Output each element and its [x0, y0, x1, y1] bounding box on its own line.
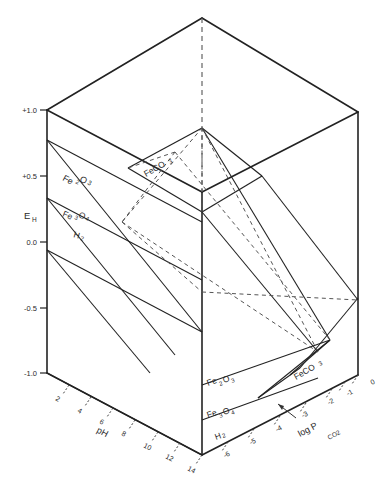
ph-tick-label-4: 10 — [143, 442, 153, 452]
feco3-fold-right — [202, 176, 262, 212]
label-fe3o4-front-face: Fe 3 O 4 — [205, 405, 236, 420]
ph-tick-10 — [152, 432, 158, 441]
label-fe2o3-left-sub2: 3 — [87, 179, 94, 187]
hidden-right-c — [175, 152, 330, 340]
label-fe2o3-left-face: Fe 2 O 3 — [61, 173, 93, 187]
front-feco3-edge — [258, 340, 330, 398]
box-top-left-ridge — [47, 18, 202, 110]
ph-tick-14 — [196, 455, 202, 464]
label-feco3-upper: FeCO 3 — [142, 158, 174, 179]
phase-diagram-svg: +1.0 +0.5 0.0 -0.5 -1.0 E H 2 4 6 8 10 1… — [0, 0, 390, 491]
sheet-right-b — [202, 212, 318, 352]
figure-canvas: +1.0 +0.5 0.0 -0.5 -1.0 E H 2 4 6 8 10 1… — [0, 0, 390, 491]
label-h2-left-face: H 2 — [72, 229, 85, 242]
boundary-h2-lower-left — [47, 250, 202, 332]
label-feco3-front-sub1: 3 — [318, 360, 324, 367]
eh-axis-title-sub: H — [32, 216, 37, 223]
pco2-tick-label-5: -1 — [345, 388, 354, 397]
ph-tick-label-6: 14 — [187, 465, 197, 475]
eh-tick-label-0: +1.0 — [22, 106, 37, 115]
pco2-tick-label-0: -6 — [222, 450, 231, 459]
box-top-right-ridge — [202, 18, 358, 112]
eh-axis-title-main: E — [24, 210, 30, 221]
label-h2-front-main: H — [213, 430, 222, 441]
label-feco3-front: FeCO 3 — [292, 360, 324, 382]
eh-tick-labels: +1.0 +0.5 0.0 -0.5 -1.0 — [22, 106, 37, 378]
feco3-fold-left — [128, 168, 202, 212]
eh-axis-title: E H — [24, 210, 37, 223]
ph-tick-label-0: 2 — [55, 395, 62, 403]
label-fe2o3-left-main: Fe — [61, 173, 75, 187]
label-fe2o3-front-main: Fe — [205, 375, 218, 388]
eh-tick-label-4: -1.0 — [24, 369, 37, 378]
box-top-front-right — [202, 112, 358, 192]
ph-tick-6 — [107, 408, 113, 417]
left-face-diagonals — [47, 140, 202, 455]
ph-tick-labels: 2 4 6 8 10 12 14 — [55, 395, 197, 475]
ph-axis-ticks — [63, 385, 202, 464]
pco2-axis-title-sub: CO2 — [326, 428, 341, 441]
pco2-axis-title-main: log P — [296, 420, 319, 438]
label-fe3o4-front-sub2: 4 — [230, 409, 236, 416]
eh-tick-label-2: 0.0 — [27, 238, 37, 247]
diag-fe2o3-left-b — [47, 198, 175, 355]
pco2-tick-label-3: -3 — [300, 410, 309, 419]
feco3-ridge-left — [128, 128, 202, 168]
pco2-tick-label-1: -5 — [248, 437, 257, 446]
eh-axis-ticks — [40, 110, 47, 373]
pco2-tick-label-6: 0 — [369, 378, 376, 386]
diag-fe2o3-left-c — [47, 250, 150, 373]
ph-tick-4 — [85, 397, 91, 406]
hidden-right-e — [122, 222, 202, 292]
pco2-axis-arrowhead — [278, 404, 284, 410]
label-fe2o3-front-sub2: 3 — [230, 377, 236, 384]
hidden-right-a — [122, 222, 318, 352]
label-feco3-upper-sub1: 3 — [168, 158, 174, 165]
ph-tick-2 — [63, 385, 69, 394]
ph-tick-12 — [174, 443, 180, 452]
ph-axis-title: pH — [95, 425, 110, 439]
pco2-tick-label-2: -4 — [274, 424, 283, 433]
eh-tick-label-1: +0.5 — [22, 172, 37, 181]
pco2-tick-label-4: -2 — [326, 397, 335, 406]
feco3-hidden-d — [122, 128, 202, 222]
sheet-right-c — [262, 176, 358, 300]
feco3-wedge-hidden — [122, 128, 202, 222]
right-face-boundaries — [202, 128, 358, 375]
ph-tick-label-1: 4 — [77, 407, 84, 415]
eh-tick-label-3: -0.5 — [24, 304, 37, 313]
ph-tick-8 — [129, 420, 135, 429]
diag-lower-left-d — [47, 373, 202, 455]
label-fe3o4-front-main: Fe — [205, 407, 218, 420]
ph-tick-label-5: 12 — [165, 453, 175, 463]
label-fe3o4-left-main: Fe — [61, 209, 74, 222]
label-fe2o3-front-face: Fe 2 O 3 — [205, 373, 236, 388]
label-feco3-front-main: FeCO — [292, 362, 317, 382]
feco3-ridge-right — [202, 128, 262, 176]
diag-fe2o3-left-a — [47, 140, 202, 332]
label-h2-left-sub1: 2 — [80, 235, 85, 242]
label-h2-front-face: H 2 — [213, 430, 227, 441]
hidden-right-d — [202, 292, 358, 300]
pco2-axis-title-group: log P CO2 — [278, 404, 342, 441]
pco2-tick-labels: -6 -5 -4 -3 -2 -1 0 — [222, 378, 376, 459]
label-fe3o4-left-sub2: 4 — [85, 215, 91, 222]
ph-tick-label-3: 8 — [121, 430, 128, 438]
feco3-hidden-b — [122, 152, 175, 222]
label-h2-front-sub1: 2 — [221, 432, 227, 439]
